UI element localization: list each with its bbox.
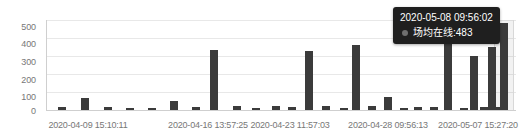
bar-17[interactable] [368, 106, 376, 110]
x-tick-4: 2020-04-28 09:56:13 [348, 120, 428, 131]
y-tick-100: 100 [0, 92, 36, 102]
bar-4[interactable] [126, 108, 134, 110]
x-axis-line [46, 110, 516, 111]
tooltip-series-value: 场均在线:483 [413, 26, 472, 39]
bar-11[interactable] [272, 106, 280, 110]
bar-23[interactable] [460, 108, 468, 110]
bar-14[interactable] [322, 106, 330, 110]
bar-6[interactable] [170, 101, 178, 110]
bar-26[interactable] [488, 47, 496, 110]
bar-28[interactable] [500, 23, 508, 110]
x-tick-5: 2020-05-07 15:27:20 [438, 120, 518, 131]
bar-5[interactable] [148, 108, 156, 110]
x-tick-1: 2020-04-09 15:10:11 [48, 120, 127, 131]
bar-2[interactable] [81, 98, 89, 110]
bar-20[interactable] [414, 107, 422, 110]
series-marker-icon [402, 30, 408, 36]
bar-chart-widget[interactable]: 500 400 300 200 100 0 2020-04-09 15:10:1… [0, 0, 526, 138]
bar-24[interactable] [470, 56, 478, 110]
bar-3[interactable] [104, 107, 112, 110]
x-tick-2: 2020-04-16 13:57:25 [168, 120, 248, 131]
bar-8[interactable] [210, 50, 218, 110]
tooltip-timestamp: 2020-05-08 09:56:02 [400, 11, 493, 24]
bar-19[interactable] [400, 108, 408, 110]
bar-21[interactable] [430, 107, 438, 110]
bar-16[interactable] [352, 45, 360, 110]
bar-1[interactable] [58, 107, 66, 110]
bar-7[interactable] [192, 107, 200, 110]
bar-15[interactable] [340, 108, 348, 110]
y-axis-ticks: 500 400 300 200 100 0 [0, 0, 44, 138]
bar-22[interactable] [444, 34, 452, 110]
bar-10[interactable] [252, 108, 260, 110]
y-tick-400: 400 [0, 39, 36, 49]
chart-tooltip: 2020-05-08 09:56:02 场均在线:483 [393, 7, 500, 44]
bar-13[interactable] [305, 51, 313, 110]
bar-25[interactable] [480, 107, 488, 110]
tooltip-series-row: 场均在线:483 [400, 26, 493, 39]
bar-12[interactable] [288, 107, 296, 110]
y-tick-0: 0 [0, 106, 36, 116]
y-tick-200: 200 [0, 75, 36, 85]
y-tick-300: 300 [0, 57, 36, 67]
x-tick-3: 2020-04-23 11:57:03 [250, 120, 329, 131]
bar-18[interactable] [384, 97, 392, 111]
bar-9[interactable] [233, 106, 241, 110]
y-tick-500: 500 [0, 22, 36, 32]
